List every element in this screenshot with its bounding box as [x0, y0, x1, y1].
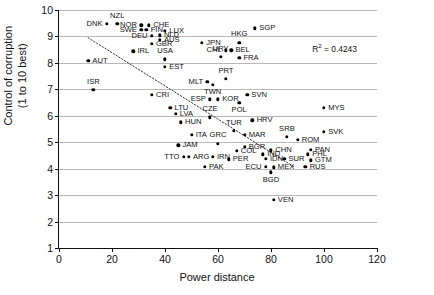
point-label: HUN	[185, 118, 201, 126]
x-tick-mark	[165, 248, 166, 252]
point-label: COL	[241, 147, 257, 155]
x-tick-mark	[271, 248, 272, 252]
point-label: URY	[213, 45, 229, 53]
x-tick-label: 80	[265, 254, 277, 265]
point-label: FIN	[151, 26, 163, 34]
point-label: DNK	[86, 20, 102, 28]
point-label: SRB	[279, 125, 295, 133]
point-label: KOR	[222, 96, 238, 104]
point-label: VEN	[278, 196, 294, 204]
point-label: SVK	[328, 128, 343, 136]
y-tick-label: 3	[47, 190, 53, 201]
point-label: DEU	[132, 32, 148, 40]
x-tick-label: 60	[212, 254, 224, 265]
point-label: ESP	[191, 96, 206, 104]
point-label: ITA	[196, 131, 207, 139]
point-label: SVN	[251, 91, 267, 99]
y-tick-label: 4	[47, 163, 53, 174]
point-label: ISR	[87, 78, 100, 86]
y-tick-label: 5	[47, 137, 53, 148]
point-label: GRC	[210, 132, 227, 140]
point-label: HRV	[257, 116, 273, 124]
plot-area: 12345678910 020406080100120 DNKNZLNORSWE…	[58, 10, 377, 249]
point-label: SGP	[259, 24, 275, 32]
point-label: LVA	[180, 110, 193, 118]
point-label: BGD	[263, 176, 279, 184]
point-label: ARG	[193, 153, 209, 161]
r-squared-value: = 0.4243	[322, 44, 357, 54]
point-label: AUT	[92, 57, 107, 65]
point-label: MAR	[249, 131, 266, 139]
point-label: POL	[232, 106, 247, 114]
x-tick-mark	[377, 248, 378, 252]
y-tick-label: 6	[47, 111, 53, 122]
point-label: HKG	[231, 31, 247, 39]
point-label: ECU	[245, 163, 261, 171]
y-axis-title-line1: Control of corruption	[2, 26, 14, 126]
point-label: MEX	[278, 164, 294, 172]
point-label: NZL	[110, 12, 124, 20]
x-tick-label: 0	[56, 254, 62, 265]
x-tick-mark	[324, 248, 325, 252]
x-tick-label: 20	[106, 254, 118, 265]
scatter-chart-figure: 12345678910 020406080100120 DNKNZLNORSWE…	[0, 0, 434, 295]
point-label: PRT	[218, 67, 233, 75]
point-label: MYS	[328, 104, 344, 112]
point-label: RUS	[310, 163, 326, 171]
x-tick-label: 40	[159, 254, 171, 265]
point-label: TUR	[226, 119, 242, 127]
y-tick-label: 7	[47, 84, 53, 95]
point-label: TTO	[164, 153, 179, 161]
y-axis-title-line2: (1 to 10 best)	[16, 0, 30, 166]
y-tick-label: 10	[41, 5, 53, 16]
point-label: TWN	[204, 88, 221, 96]
y-tick-label: 1	[47, 243, 53, 254]
x-tick-label: 100	[315, 254, 333, 265]
point-label: MLT	[189, 78, 204, 86]
point-label: CZE	[202, 106, 217, 114]
point-label: PAK	[209, 163, 224, 171]
point-label: FRA	[243, 54, 258, 62]
y-axis-title: Control of corruption (1 to 10 best)	[2, 0, 30, 166]
point-label: USA	[157, 48, 173, 56]
point-label: IRL	[137, 47, 149, 55]
x-tick-mark	[112, 248, 113, 252]
x-axis-title: Power distance	[58, 271, 376, 283]
point-label: ROM	[302, 136, 320, 144]
point-label: CRI	[156, 91, 169, 99]
point-label: JAM	[182, 142, 197, 150]
x-tick-label: 120	[368, 254, 386, 265]
y-tick-label: 9	[47, 31, 53, 42]
point-label: EST	[169, 63, 184, 71]
y-tick-label: 2	[47, 216, 53, 227]
point-label: IDN	[270, 155, 283, 163]
x-tick-mark	[218, 248, 219, 252]
point-label: SUR	[288, 155, 304, 163]
r-squared-annotation: R2 = 0.4243	[312, 42, 357, 54]
x-tick-mark	[59, 248, 60, 252]
y-tick-label: 8	[47, 58, 53, 69]
